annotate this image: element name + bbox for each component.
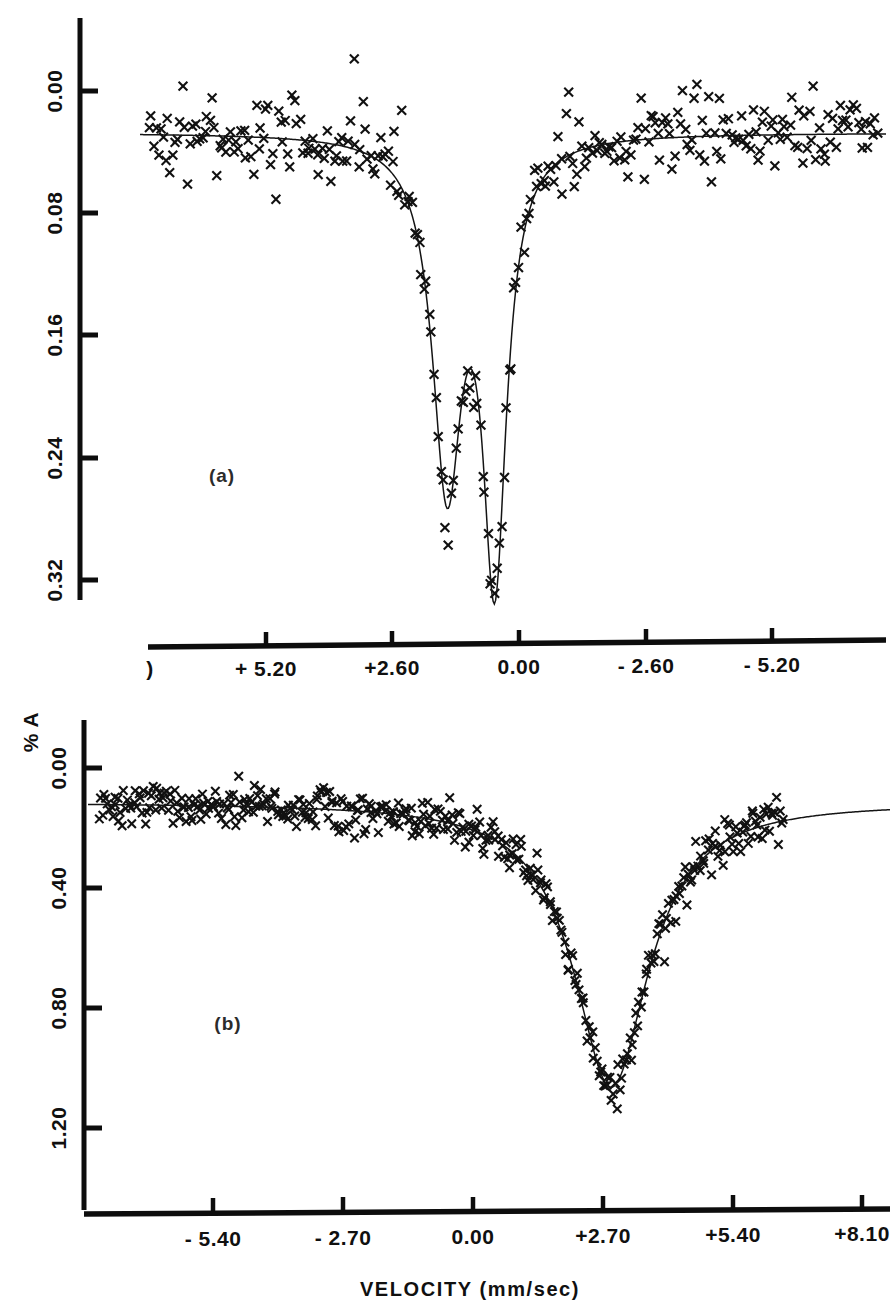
panel-a-left-stub: ) (146, 657, 154, 680)
data-point (641, 124, 650, 133)
data-point (832, 143, 841, 152)
data-point (389, 157, 398, 166)
data-point (173, 135, 182, 144)
data-point (198, 790, 206, 798)
panel-b-xtick-5: +8.10 (834, 1222, 890, 1245)
data-point (735, 839, 743, 847)
data-point (654, 129, 663, 138)
data-point (844, 123, 853, 132)
data-point (707, 871, 715, 879)
data-point (863, 143, 872, 152)
data-point (870, 114, 879, 123)
data-point (119, 786, 127, 794)
data-point (749, 105, 758, 114)
panel-a-ytick-0: 0.00 (43, 70, 66, 113)
panel-b-xtick-1: - 2.70 (315, 1226, 372, 1249)
data-point (397, 106, 406, 115)
data-point (821, 157, 830, 166)
panel-a-ytick-3: 0.24 (43, 437, 66, 480)
panel-b-xtick-4: +5.40 (705, 1223, 761, 1246)
data-point (212, 171, 221, 180)
data-point (211, 787, 219, 795)
data-point (533, 849, 541, 857)
data-point (715, 94, 724, 103)
data-point (764, 136, 773, 145)
data-point (384, 147, 393, 156)
data-point (665, 129, 674, 138)
data-point (274, 107, 283, 116)
panel-b-data-points (95, 772, 787, 1113)
data-point (744, 130, 753, 139)
data-point (305, 799, 313, 807)
data-point (450, 836, 458, 844)
data-point (719, 861, 727, 869)
data-point (180, 123, 189, 132)
data-point (183, 180, 192, 189)
data-point (350, 55, 359, 64)
data-point (673, 108, 682, 117)
data-point (171, 786, 179, 794)
data-point (235, 772, 243, 780)
panel-a-y-ticks (80, 91, 98, 580)
data-point (266, 160, 275, 169)
data-point (834, 124, 843, 133)
data-point (425, 310, 434, 319)
data-point (99, 811, 107, 819)
panel-b-x-axis (84, 1209, 890, 1214)
data-point (192, 795, 200, 803)
data-point (168, 151, 177, 160)
data-point (624, 173, 633, 182)
data-point (558, 190, 567, 199)
data-point (500, 473, 509, 482)
data-point (580, 162, 589, 171)
panel-a-data-points (145, 55, 882, 598)
data-point (355, 163, 364, 172)
data-point (255, 145, 264, 154)
data-point (465, 383, 474, 392)
data-point (505, 864, 513, 872)
panel-a-xtick-2: 0.00 (498, 655, 541, 678)
panel-b-tag: (b) (214, 1013, 241, 1034)
data-point (493, 564, 502, 573)
panel-b-xtick-2: 0.00 (452, 1225, 495, 1248)
data-point (693, 80, 702, 89)
data-point (690, 94, 699, 103)
panel-a-ytick-2: 0.16 (43, 314, 66, 357)
data-point (549, 177, 558, 186)
data-point (296, 115, 305, 124)
data-point (660, 958, 668, 966)
data-point (446, 794, 454, 802)
data-point (799, 159, 808, 168)
data-point (118, 822, 126, 830)
data-point (627, 151, 636, 160)
data-point (165, 168, 174, 177)
data-point (613, 1105, 621, 1113)
data-point (159, 133, 168, 142)
data-point (253, 101, 262, 110)
data-point (283, 150, 292, 159)
data-point (191, 120, 200, 129)
data-point (498, 522, 507, 531)
panel-b-xtick-3: +2.70 (575, 1224, 631, 1247)
data-point (394, 799, 402, 807)
panel-b-ytick-0: 0.00 (47, 747, 70, 790)
data-point (758, 118, 767, 127)
data-point (541, 182, 550, 191)
data-point (570, 182, 579, 191)
data-point (678, 86, 687, 95)
data-point (263, 817, 271, 825)
data-point (444, 541, 453, 550)
data-point (811, 155, 820, 164)
data-point (707, 178, 716, 187)
data-point (249, 170, 258, 179)
panel-b-y-axis-label: % A (19, 712, 42, 752)
data-point (232, 821, 240, 829)
data-point (359, 97, 368, 106)
data-point (376, 133, 385, 142)
data-point (667, 165, 676, 174)
data-point (323, 126, 332, 135)
data-point (554, 132, 563, 141)
data-point (374, 828, 382, 836)
panel-a-ytick-4: 0.32 (43, 559, 66, 602)
panel-a-fit-curve (140, 134, 886, 604)
